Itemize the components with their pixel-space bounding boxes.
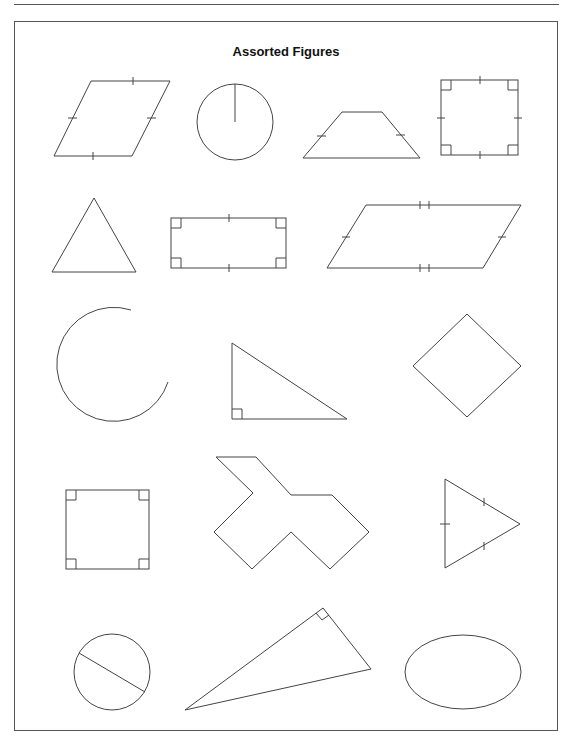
right-triangle-2 bbox=[185, 608, 371, 710]
square-2 bbox=[66, 490, 149, 569]
diamond-1 bbox=[413, 314, 521, 417]
figures-canvas bbox=[0, 0, 572, 739]
isosceles-trapezoid bbox=[303, 112, 420, 158]
rectangle-1 bbox=[171, 214, 286, 272]
parallelogram-1 bbox=[327, 201, 521, 272]
right-triangle-1 bbox=[232, 343, 347, 419]
isosceles-triangle bbox=[440, 479, 520, 568]
circle-radius bbox=[197, 84, 273, 160]
concave-polygon bbox=[214, 457, 369, 569]
ellipse-1 bbox=[405, 635, 521, 709]
circle-chord bbox=[74, 634, 150, 710]
rhombus-1 bbox=[54, 77, 170, 160]
square-1 bbox=[437, 76, 522, 159]
triangle-1 bbox=[52, 198, 136, 272]
arc-1 bbox=[57, 307, 168, 421]
